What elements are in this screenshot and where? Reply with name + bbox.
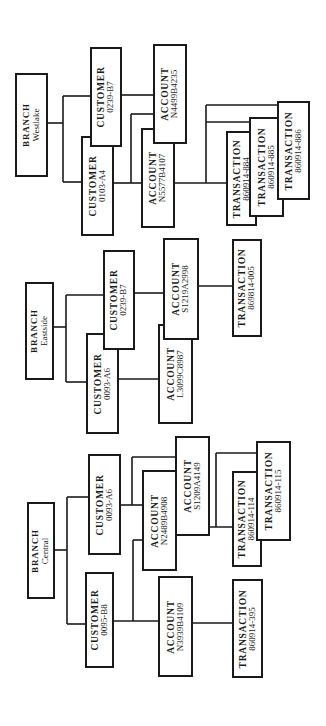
customer-box: CUSTOMER0239-B7 bbox=[90, 47, 122, 147]
branch-eastside-box: BRANCHEastside bbox=[25, 282, 54, 380]
customer-box: CUSTOMER0095-B8 bbox=[85, 572, 114, 668]
customer-id: 0093-A6 bbox=[105, 474, 115, 535]
transaction-id: 860914-885 bbox=[267, 127, 277, 206]
transaction-label: TRANSACTION bbox=[283, 111, 293, 190]
account-box: ACCOUNTN2489B4908 bbox=[142, 470, 177, 571]
account-id: S1209A4149 bbox=[193, 459, 203, 513]
transaction-label: TRANSACTION bbox=[231, 139, 241, 218]
transaction-box: TRANSACTION869814-005 bbox=[232, 239, 262, 337]
customer-label: CUSTOMER bbox=[89, 589, 99, 650]
branch-name: Westlake bbox=[32, 103, 42, 147]
customer-label: CUSTOMER bbox=[87, 155, 97, 216]
customer-id: 0095-B8 bbox=[100, 589, 110, 650]
branch-label: BRANCH bbox=[22, 103, 32, 147]
customer-id: 0103-A4 bbox=[98, 155, 108, 216]
transaction-id: 860914-115 bbox=[274, 451, 284, 530]
transaction-label: TRANSACTION bbox=[256, 127, 266, 206]
account-box: ACCOUNTS1209A4149 bbox=[175, 436, 210, 536]
transaction-box: TRANSACTION860914-115 bbox=[256, 441, 291, 541]
customer-box: CUSTOMER0103-A4 bbox=[81, 136, 114, 236]
transaction-id: 860914-886 bbox=[294, 111, 304, 190]
customer-id: 0239-B7 bbox=[106, 66, 116, 127]
branch-westlake-box: BRANCHWestlake bbox=[15, 73, 48, 177]
customer-id: 0093-A6 bbox=[103, 353, 113, 414]
account-id: N2489B4908 bbox=[160, 494, 170, 548]
branch-hierarchy-diagram: BRANCHWestlake CUSTOMER0103-A4 CUSTOMER0… bbox=[0, 0, 326, 726]
customer-box: CUSTOMER0239-B7 bbox=[103, 250, 135, 350]
transaction-id: 869814-005 bbox=[247, 248, 257, 327]
customer-label: CUSTOMER bbox=[94, 474, 104, 535]
customer-box: CUSTOMER0093-A6 bbox=[88, 454, 121, 555]
branch-name: Eastside bbox=[40, 309, 50, 353]
account-id: N5577B4107 bbox=[158, 151, 168, 205]
account-id: L3099C8987 bbox=[176, 347, 186, 401]
transaction-id: 860914-395 bbox=[248, 589, 258, 668]
branch-name: Central bbox=[41, 529, 51, 573]
transaction-box: TRANSACTION860914-886 bbox=[277, 101, 310, 200]
account-label: ACCOUNT bbox=[165, 347, 175, 401]
account-box: ACCOUNTN3939B4109 bbox=[158, 576, 193, 677]
account-label: ACCOUNT bbox=[182, 459, 192, 513]
account-box: ACCOUNTS1219A2998 bbox=[163, 238, 199, 340]
customer-id: 0239-B7 bbox=[119, 269, 129, 330]
branch-central-box: BRANCHCentral bbox=[27, 502, 55, 599]
transaction-label: TRANSACTION bbox=[237, 589, 247, 668]
transaction-box: TRANSACTION860914-395 bbox=[232, 579, 263, 678]
account-label: ACCOUNT bbox=[149, 494, 159, 548]
account-id: S1219A2998 bbox=[181, 262, 191, 316]
customer-label: CUSTOMER bbox=[92, 353, 102, 414]
account-label: ACCOUNT bbox=[165, 600, 175, 654]
transaction-label: TRANSACTION bbox=[263, 451, 273, 530]
account-id: N3939B4109 bbox=[176, 600, 186, 654]
account-box: ACCOUNTN4499B4235 bbox=[153, 44, 187, 144]
account-id: N4499B4235 bbox=[170, 67, 180, 121]
branch-label: BRANCH bbox=[30, 309, 40, 353]
